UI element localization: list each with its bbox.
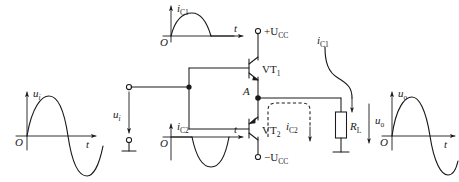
output-waveform-group (382, 92, 458, 175)
load-resistor-group (333, 112, 349, 152)
vt1-label: VT1 (262, 63, 281, 78)
ic2-waveform-trace (192, 137, 229, 167)
input-waveform-x-label: t (86, 138, 90, 150)
ic2-waveform-group (163, 124, 243, 167)
output-waveform-origin-label: O (380, 136, 388, 148)
load-resistor-body (336, 112, 347, 138)
output-voltage-label: uo (375, 114, 385, 129)
circuit-diagram-canvas: ui O t iC1 O t iC2 O t uo O t ui +UCC −U… (0, 0, 459, 182)
transistor-vt1 (249, 57, 259, 80)
vt2-collector-lead (249, 133, 258, 140)
transistor-vt2 (249, 117, 258, 140)
ic1-current-label: iC1 (317, 34, 329, 49)
ic1-waveform-y-label: iC1 (177, 2, 189, 17)
input-waveform-origin-label: O (15, 136, 23, 148)
input-waveform-y-label: ui (33, 87, 41, 102)
ic1-waveform-origin-label: O (160, 36, 168, 48)
input-source-group (122, 84, 136, 151)
negative-supply-terminal[interactable] (255, 154, 260, 159)
ic2-waveform-y-label: iC2 (177, 120, 189, 135)
output-waveform-x-label: t (444, 138, 448, 150)
positive-supply-terminal[interactable] (255, 28, 260, 33)
vt2-label: VT2 (262, 124, 281, 139)
ic1-waveform-x-label: t (234, 22, 238, 34)
input-junction-dot (186, 84, 191, 89)
node-a-label: A (242, 85, 250, 97)
circuit-figure: ui O t iC1 O t iC2 O t uo O t ui +UCC −U… (0, 0, 459, 182)
ic1-waveform-trace (171, 13, 211, 36)
ic1-current-path (325, 47, 352, 112)
input-source-label: ui (113, 108, 121, 123)
load-resistor-label: RL (349, 120, 362, 135)
input-terminal-bottom[interactable] (126, 137, 131, 142)
ic1-current-curve (325, 47, 352, 98)
input-waveform-group (16, 92, 103, 176)
ic2-current-label: iC2 (286, 120, 298, 135)
output-waveform-y-label: uo (398, 87, 408, 102)
positive-supply-label: +UCC (264, 25, 288, 40)
ic2-waveform-origin-label: O (160, 137, 168, 149)
vt1-collector-lead (249, 57, 258, 64)
ic1-waveform-group (163, 6, 243, 42)
negative-supply-label: −UCC (264, 151, 288, 166)
